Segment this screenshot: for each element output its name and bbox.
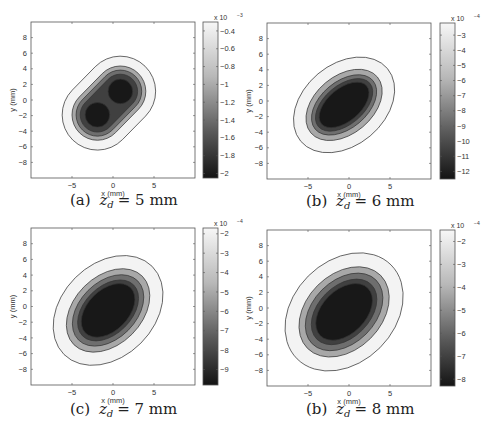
y-tick-label: 2 (259, 288, 263, 297)
y-tick-label: 6 (23, 49, 27, 58)
y-tick-label: 8 (23, 239, 27, 248)
x-tick-label: 5 (152, 388, 156, 397)
x-tick-label: 5 (152, 181, 156, 190)
y-tick-label: 8 (23, 33, 27, 42)
y-tick-label: 6 (259, 50, 263, 59)
x-tick-label: −5 (68, 388, 77, 397)
colorbar-gradient (203, 228, 218, 385)
panel-caption: (a) zd= 5 mm (70, 191, 178, 210)
colorbar-gradient (203, 22, 218, 178)
colorbar-tick-label: −1 (220, 80, 229, 89)
contour-figure: −50586420−2−4−6−8x (mm)y (mm)−0.4−0.6−0.… (0, 0, 488, 438)
colorbar-tick-label: −2 (220, 229, 229, 238)
y-tick-label: 2 (259, 81, 263, 90)
colorbar-exponent: −4 (237, 218, 243, 224)
colorbar-tick-label: −8 (220, 346, 229, 355)
colorbar-tick-label: −3 (457, 31, 466, 40)
y-tick-label: −8 (18, 365, 27, 374)
x-tick-label: 5 (388, 182, 392, 191)
y-tick-label: 6 (259, 257, 263, 266)
colorbar-tick-label: −6 (457, 329, 466, 338)
y-tick-label: −4 (18, 334, 27, 343)
colorbar-tick-label: −12 (457, 167, 470, 176)
colorbar: −2−3−4−5−6−7−8−9x 10−4 (203, 218, 243, 385)
y-tick-label: 2 (23, 80, 27, 89)
y-tick-label: −4 (254, 335, 263, 344)
y-axis-label: y (mm) (244, 296, 253, 320)
y-tick-label: −6 (254, 143, 263, 152)
colorbar-tick-label: −2 (457, 237, 466, 246)
colorbar-tick-label: −1.4 (220, 116, 235, 125)
colorbar-tick-label: −4 (457, 46, 466, 55)
panel-caption: (b) zd= 8 mm (306, 400, 415, 419)
y-tick-label: 4 (23, 64, 27, 73)
y-tick-label: 8 (259, 34, 263, 43)
y-tick-label: −4 (254, 128, 263, 137)
colorbar: −0.4−0.6−0.8−1−1.2−1.4−1.6−1.8−2x 10−3 (203, 12, 243, 178)
colorbar-multiplier: x 10 (451, 15, 464, 22)
y-tick-label: 4 (259, 272, 263, 281)
colorbar-exponent: −4 (474, 220, 480, 226)
colorbar-tick-label: −4 (220, 268, 229, 277)
x-tick-label: 5 (388, 389, 392, 398)
panel-caption: (c) zd= 7 mm (70, 400, 177, 419)
y-axis-label: y (mm) (8, 88, 17, 112)
panel-caption: (b) zd= 6 mm (306, 192, 415, 211)
y-tick-label: 0 (23, 302, 27, 311)
colorbar-tick-label: −5 (457, 61, 466, 70)
colorbar-tick-label: −6 (220, 307, 229, 316)
y-tick-label: −2 (18, 318, 27, 327)
colorbar-tick-label: −1.2 (220, 98, 235, 107)
y-tick-label: −2 (18, 111, 27, 120)
colorbar: −3−4−5−6−7−8−9−10−11−12x 10−4 (440, 13, 480, 179)
y-tick-label: 8 (259, 241, 263, 250)
colorbar-tick-label: −0.6 (220, 44, 235, 53)
colorbar-tick-label: −1.8 (220, 151, 235, 160)
y-tick-label: −6 (254, 350, 263, 359)
y-axis-label: y (mm) (8, 294, 17, 318)
colorbar-tick-label: −8 (457, 106, 466, 115)
colorbar-tick-label: −2 (220, 169, 229, 178)
y-tick-label: −8 (18, 158, 27, 167)
colorbar-multiplier: x 10 (214, 14, 227, 21)
colorbar-tick-label: −6 (457, 76, 466, 85)
colorbar-gradient (440, 230, 455, 386)
colorbar-tick-label: −7 (457, 91, 466, 100)
colorbar-tick-label: −4 (457, 283, 466, 292)
x-tick-label: −5 (68, 181, 77, 190)
y-tick-label: 2 (23, 286, 27, 295)
colorbar-tick-label: −7 (220, 326, 229, 335)
y-tick-label: 0 (259, 304, 263, 313)
panel-1: −50586420−2−4−6−8x (mm)y (mm)−0.4−0.6−0.… (8, 12, 243, 210)
colorbar-tick-label: −0.8 (220, 62, 235, 71)
colorbar-exponent: −4 (474, 13, 480, 19)
panel-4: −50586420−2−4−6−8x (mm)y (mm)−2−3−4−5−6−… (244, 220, 480, 419)
y-tick-label: 4 (23, 271, 27, 280)
colorbar-tick-label: −5 (457, 306, 466, 315)
y-tick-label: −6 (18, 142, 27, 151)
y-tick-label: 4 (259, 65, 263, 74)
y-tick-label: −6 (18, 349, 27, 358)
colorbar-tick-label: −9 (220, 365, 229, 374)
colorbar-tick-label: −0.4 (220, 27, 235, 36)
y-tick-label: 0 (23, 96, 27, 105)
colorbar-tick-label: −3 (220, 249, 229, 258)
colorbar-tick-label: −1.6 (220, 133, 235, 142)
colorbar-tick-label: −3 (457, 260, 466, 269)
y-tick-label: 0 (259, 97, 263, 106)
y-tick-label: −8 (254, 366, 263, 375)
x-tick-label: −5 (304, 182, 313, 191)
colorbar-exponent: −3 (237, 12, 243, 18)
y-tick-label: 6 (23, 255, 27, 264)
colorbar-tick-label: −11 (457, 152, 469, 161)
y-tick-label: −2 (254, 319, 263, 328)
panel-3: −50586420−2−4−6−8x (mm)y (mm)−2−3−4−5−6−… (8, 218, 243, 419)
colorbar: −2−3−4−5−6−7−8x 10−4 (440, 220, 480, 386)
colorbar-multiplier: x 10 (451, 222, 464, 229)
y-tick-label: −8 (254, 159, 263, 168)
x-tick-label: −5 (304, 389, 313, 398)
colorbar-gradient (440, 23, 455, 179)
colorbar-tick-label: −9 (457, 122, 466, 131)
panel-2: −50586420−2−4−6−8x (mm)y (mm)−3−4−5−6−7−… (244, 13, 480, 211)
y-axis-label: y (mm) (244, 89, 253, 113)
